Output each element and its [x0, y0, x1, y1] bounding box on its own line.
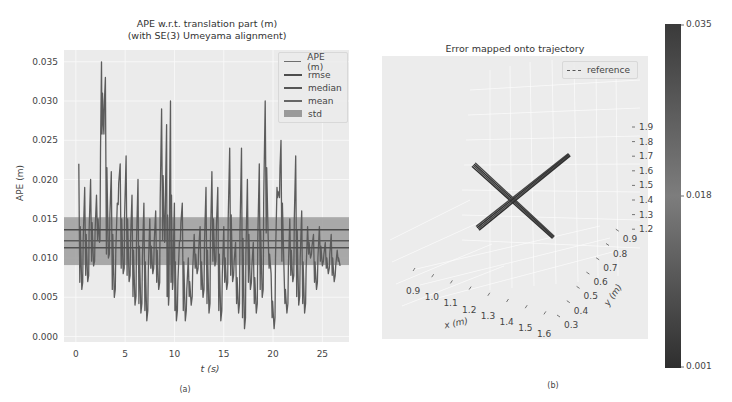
svg-text:0.7: 0.7: [603, 263, 617, 273]
svg-text:1.6: 1.6: [537, 329, 552, 339]
caption-b: (b): [538, 381, 568, 390]
svg-text:1.4: 1.4: [639, 195, 654, 205]
svg-text:0.6: 0.6: [593, 277, 608, 287]
svg-text:0.3: 0.3: [564, 320, 578, 330]
colorbar-mid-label: 0.018: [686, 190, 712, 200]
svg-text:0.9: 0.9: [623, 234, 638, 244]
svg-text:1.3: 1.3: [481, 311, 495, 321]
svg-text:1.2: 1.2: [639, 224, 653, 234]
colorbar-min-label: 0.001: [686, 361, 712, 371]
svg-text:0.5: 0.5: [584, 291, 598, 301]
svg-text:1.5: 1.5: [518, 323, 532, 333]
colorbar: [665, 24, 681, 368]
svg-text:0.8: 0.8: [613, 249, 628, 259]
svg-text:1.1: 1.1: [443, 298, 457, 308]
colorbar-max-label: 0.035: [686, 19, 712, 29]
svg-text:1.6: 1.6: [639, 166, 654, 176]
right-legend: reference: [562, 61, 638, 79]
svg-text:1.8: 1.8: [639, 137, 654, 147]
svg-text:1.3: 1.3: [639, 210, 653, 220]
svg-text:1.4: 1.4: [500, 317, 515, 327]
legend-swatch-reference: [567, 70, 581, 71]
svg-text:0.9: 0.9: [406, 286, 421, 296]
svg-text:1.9: 1.9: [639, 122, 654, 132]
svg-text:1.7: 1.7: [639, 151, 653, 161]
svg-text:1.2: 1.2: [462, 305, 476, 315]
svg-text:0.4: 0.4: [574, 306, 589, 316]
svg-text:1.5: 1.5: [639, 180, 653, 190]
svg-text:1.0: 1.0: [425, 292, 440, 302]
